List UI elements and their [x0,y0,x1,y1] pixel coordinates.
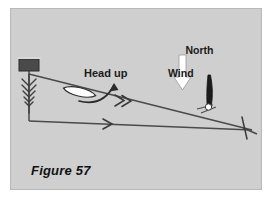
figure-panel: Head up North Wind Figure 57 [10,8,262,190]
double-chevron-direction-marker [115,95,131,107]
course-lines [29,74,257,134]
north-wind-arrow [174,55,191,90]
start-block-marker [17,57,41,71]
feathered-tide-arrow [22,71,36,113]
sailboat-with-sail [197,75,216,113]
figure-screenshot: Head up North Wind Figure 57 [0,0,272,199]
figure-caption: Figure 57 [31,163,91,178]
